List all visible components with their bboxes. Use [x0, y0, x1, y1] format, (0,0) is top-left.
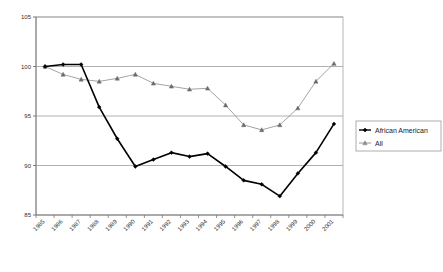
y-tick-label-95: 95	[24, 113, 31, 119]
y-tick-label-85: 85	[24, 212, 31, 218]
line-chart: 859095100105 198519861987198819891990199…	[0, 0, 443, 272]
legend-border	[356, 121, 441, 151]
y-tick-label-105: 105	[21, 14, 32, 20]
legend: African AmericanAll	[356, 121, 441, 151]
legend-label: All	[375, 140, 383, 147]
y-tick-label-90: 90	[24, 163, 31, 169]
y-tick-label-100: 100	[21, 64, 32, 70]
legend-label: African American	[375, 127, 428, 134]
chart-container: 859095100105 198519861987198819891990199…	[0, 0, 443, 272]
